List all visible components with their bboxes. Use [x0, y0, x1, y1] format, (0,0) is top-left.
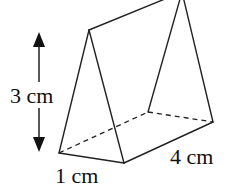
- front-right-edge: [89, 30, 124, 163]
- back-left-edge: [148, 0, 182, 112]
- front-left-edge: [59, 30, 89, 153]
- height-label: 3 cm: [10, 83, 53, 108]
- arrow-down-icon: [33, 137, 45, 152]
- back-right-edge: [182, 0, 213, 122]
- triangular-prism-diagram: 3 cm 1 cm 4 cm: [0, 0, 235, 185]
- prism-solid-edges: [59, 0, 213, 163]
- top-ridge-edge: [89, 0, 182, 30]
- base-label: 1 cm: [55, 163, 98, 185]
- hidden-back-base-edge: [148, 112, 213, 122]
- hidden-bottom-left-length-edge: [59, 112, 148, 153]
- front-base-edge: [59, 153, 124, 163]
- arrow-up-icon: [33, 32, 45, 47]
- length-label: 4 cm: [170, 144, 213, 169]
